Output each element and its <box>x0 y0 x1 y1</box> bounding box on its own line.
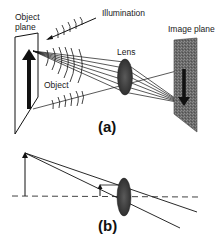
lens-b <box>117 178 131 216</box>
label-object: Object <box>44 81 69 90</box>
lens-a <box>118 59 133 95</box>
label-illumination: Illumination <box>102 9 145 18</box>
panel-a <box>15 17 197 134</box>
caption-b: (b) <box>98 217 117 234</box>
label-image-plane: Image plane <box>168 25 215 34</box>
caption-a: (a) <box>98 118 116 135</box>
label-lens: Lens <box>117 48 135 57</box>
illumination-arrow <box>46 17 96 40</box>
label-object-plane-line2: plane <box>15 23 36 32</box>
optical-axis <box>12 196 198 197</box>
label-object-plane-line1: Object <box>15 13 40 22</box>
object-arrow <box>22 49 36 109</box>
object-plane <box>15 33 38 134</box>
object-arrow-b <box>22 152 28 196</box>
